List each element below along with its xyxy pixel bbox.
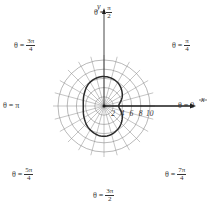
grid-ray (60, 106, 104, 132)
grid-ray (55, 106, 104, 119)
angle-label-text: θ = (165, 171, 175, 179)
angle-label-text: θ = π (3, 102, 19, 110)
angle-label-text: θ = (12, 171, 22, 179)
x-axis-label: x (201, 95, 205, 104)
grid-ray (104, 62, 130, 106)
angle-fraction: 7π4 (177, 167, 186, 182)
angle-label: θ = 0 (178, 102, 194, 110)
angle-label: θ = π4 (172, 38, 190, 53)
x-tick-label: 2 (111, 109, 115, 118)
angle-fraction: π2 (106, 5, 112, 20)
angle-label-text: θ = 0 (178, 102, 194, 110)
angle-label-text: θ = (14, 42, 24, 50)
grid-ray (91, 57, 104, 106)
grid-ray (104, 93, 153, 106)
grid-ray (55, 93, 104, 106)
origin-dot (103, 105, 106, 108)
grid-ray (60, 81, 104, 107)
angle-label: θ = 5π4 (12, 167, 33, 182)
x-tick-label: 10 (146, 109, 154, 118)
grid-ray (79, 106, 105, 150)
angle-fraction: 3π2 (105, 188, 114, 203)
angle-label-text: θ = (93, 192, 103, 200)
x-tick-label: 8 (139, 109, 143, 118)
grid-ray (104, 81, 148, 107)
y-axis-label: y (97, 2, 101, 11)
angle-label: θ = 3π2 (93, 188, 114, 203)
grid-ray (79, 62, 105, 106)
grid-ray (104, 70, 140, 106)
angle-fraction: 5π4 (24, 167, 33, 182)
x-tick-label: 4 (120, 109, 124, 118)
angle-label: θ = π (3, 102, 19, 110)
grid-ray (91, 106, 104, 155)
grid-ray (104, 106, 130, 150)
angle-label: θ = 3π4 (14, 38, 35, 53)
angle-label-text: θ = (172, 42, 182, 50)
x-tick-label: 6 (130, 109, 134, 118)
angle-fraction: 3π4 (26, 38, 35, 53)
angle-fraction: π4 (184, 38, 190, 53)
angle-label: θ = 7π4 (165, 167, 186, 182)
